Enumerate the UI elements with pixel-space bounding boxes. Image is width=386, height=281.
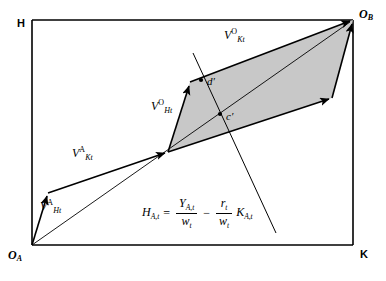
fraction-two-num-subscript: t	[225, 203, 227, 212]
vector-v-k-a	[48, 153, 165, 193]
equation-term-three-symbol: K	[236, 205, 244, 219]
equation-block: HA,t = YA,t wt − rt wt KA,t	[142, 197, 253, 230]
v-k-o-subscript: Kt	[237, 35, 245, 44]
v-k-a-subscript: Kt	[85, 153, 93, 162]
origin-b-symbol: O	[359, 7, 368, 21]
fraction-one-denominator: wt	[179, 214, 195, 230]
axis-label-h: H	[17, 18, 25, 29]
origin-b-label: OB	[359, 8, 373, 20]
vector-label-v-h-o: VOHt	[151, 99, 172, 115]
fraction-one-num-subscript: A,t	[186, 203, 195, 212]
equation-fraction-one: YA,t wt	[176, 197, 197, 230]
dot-c-prime	[218, 112, 222, 116]
vector-label-v-k-a: VAKt	[72, 146, 93, 162]
equation-lhs-subscript: A,t	[151, 212, 160, 221]
dot-d-prime	[199, 78, 203, 82]
point-label-c-prime: c′	[226, 111, 233, 122]
origin-a-subscript: A	[17, 254, 22, 263]
fraction-two-den-symbol: w	[219, 214, 227, 228]
fraction-one-numerator: YA,t	[176, 197, 197, 213]
fraction-two-den-subscript: t	[227, 221, 229, 230]
origin-a-symbol: O	[8, 248, 17, 262]
equation-term-three: KA,t	[236, 206, 253, 221]
point-label-d-prime: d′	[207, 76, 215, 87]
diagram-canvas: H K OA OB VAHt VAKt VOHt VOKt d′ c′ HA,t…	[0, 0, 386, 281]
equation-fraction-two: rt wt	[216, 197, 232, 230]
diagram-svg	[0, 0, 386, 281]
equation-lhs: HA,t	[142, 206, 159, 221]
fraction-one-num-symbol: Y	[179, 196, 186, 210]
equation-lhs-symbol: H	[142, 205, 151, 219]
fraction-one-den-symbol: w	[182, 214, 190, 228]
equation-term-three-subscript: A,t	[244, 212, 253, 221]
equation-minus: −	[201, 207, 212, 219]
vector-label-v-h-a: VAHt	[40, 199, 61, 215]
v-h-a-subscript: Ht	[53, 206, 61, 215]
origin-b-subscript: B	[368, 13, 373, 22]
origin-a-label: OA	[8, 249, 22, 261]
vector-label-v-k-o: VOKt	[224, 28, 245, 44]
fraction-two-denominator: wt	[216, 214, 232, 230]
fraction-two-numerator: rt	[218, 197, 231, 213]
v-h-o-subscript: Ht	[164, 106, 172, 115]
equation-equals: =	[161, 207, 172, 219]
axis-label-k: K	[360, 249, 368, 260]
fraction-one-den-subscript: t	[190, 221, 192, 230]
